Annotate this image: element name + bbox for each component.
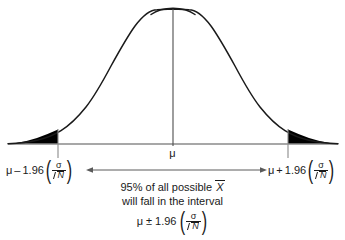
lower-bound-operator: – bbox=[14, 165, 20, 176]
caption-line-1: 95% of all possible X bbox=[0, 182, 345, 193]
lower-bound-denominator: N bbox=[52, 171, 67, 180]
lower-bound-fraction: σ N bbox=[52, 161, 67, 180]
x-bar-symbol: X bbox=[215, 182, 224, 193]
lower-bound-label: μ–1.96( σ N ) bbox=[6, 161, 74, 180]
caption-paren-open: ( bbox=[180, 212, 185, 231]
interval-caption: 95% of all possible X will fall in the i… bbox=[0, 182, 345, 231]
lower-bound-paren-close: ) bbox=[67, 161, 72, 180]
upper-bound-paren-open: ( bbox=[308, 161, 313, 180]
caption-line-2: will fall in the interval bbox=[0, 196, 345, 207]
caption-denominator: N bbox=[186, 222, 201, 231]
caption-operator: ± bbox=[146, 216, 152, 227]
upper-bound-coefficient: 1.96 bbox=[285, 165, 306, 176]
lower-bound-mu: μ bbox=[6, 165, 12, 176]
lower-bound-coefficient: 1.96 bbox=[22, 165, 43, 176]
caption-line-3: μ±1.96( σ N ) bbox=[0, 212, 345, 231]
upper-bound-label: μ+1.96( σ N ) bbox=[268, 161, 336, 180]
upper-bound-denominator: N bbox=[314, 171, 329, 180]
mean-label: μ bbox=[0, 148, 345, 159]
interval-double-arrow bbox=[86, 167, 267, 173]
caption-line-1-text: 95% of all possible bbox=[120, 181, 215, 193]
upper-bound-mu: μ bbox=[268, 165, 274, 176]
upper-bound-paren-close: ) bbox=[329, 161, 334, 180]
upper-bound-fraction: σ N bbox=[314, 161, 329, 180]
caption-paren-close: ) bbox=[201, 212, 206, 231]
caption-mu: μ bbox=[137, 216, 143, 227]
normal-distribution-figure: μ μ–1.96( σ N ) μ+1.96( σ N ) 95% of all… bbox=[0, 0, 345, 240]
lower-bound-paren-open: ( bbox=[46, 161, 51, 180]
caption-fraction: σ N bbox=[186, 212, 201, 231]
caption-coefficient: 1.96 bbox=[155, 216, 176, 227]
upper-bound-operator: + bbox=[276, 165, 282, 176]
